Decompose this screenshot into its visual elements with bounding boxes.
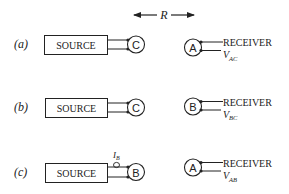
receiver-terminal-label: A [189, 42, 197, 54]
row-b: (b) SOURCE C B RECEIVER VBC [14, 97, 272, 122]
receiver-label: RECEIVER [223, 37, 272, 48]
source-label: SOURCE [57, 168, 96, 179]
voltage-label: VBC [223, 109, 238, 122]
source-label: SOURCE [56, 40, 95, 51]
row-label: (b) [14, 100, 28, 114]
row-label: (c) [14, 165, 27, 179]
distance-indicator: R [134, 8, 194, 22]
source-label: SOURCE [57, 103, 96, 114]
source-terminal-label: B [132, 167, 139, 179]
voltage-label: VAC [223, 49, 238, 62]
antenna-measurement-diagram: R (a) SOURCE C A RECEIVER VAC (b) SOURCE… [0, 0, 289, 194]
row-a: (a) SOURCE C A RECEIVER VAC [14, 36, 272, 62]
receiver-terminal-label: B [189, 101, 196, 113]
distance-label: R [159, 8, 168, 22]
current-label: IB [112, 150, 120, 161]
source-terminal-label: C [132, 102, 140, 114]
receiver-label: RECEIVER [223, 158, 272, 169]
source-terminal-label: C [132, 39, 140, 51]
row-c: (c) SOURCE IB B A RECEIVER VAB [14, 150, 272, 183]
receiver-label: RECEIVER [223, 97, 272, 108]
receiver-terminal-label: A [189, 162, 197, 174]
voltage-label: VAB [223, 170, 237, 183]
row-label: (a) [14, 37, 28, 51]
